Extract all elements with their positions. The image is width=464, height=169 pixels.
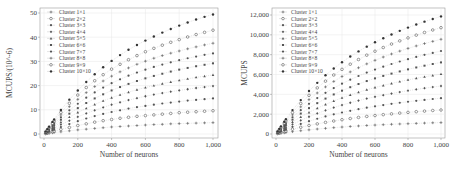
- y-tick-label: 8,000: [253, 51, 269, 59]
- x-tick-label: 1,000: [205, 141, 221, 149]
- legend-entry: Cluster 8×8: [291, 55, 318, 61]
- legend-entry: Cluster 9×9: [59, 62, 86, 68]
- left-chart: 02004006008001,00001020304050Number of n…: [5, 8, 221, 159]
- y-tick-label: 30: [30, 58, 38, 66]
- legend-entry: Cluster 7×7: [291, 49, 318, 55]
- y-tick-label: 12,000: [250, 11, 270, 19]
- legend-entry: Cluster 4×4: [59, 29, 86, 35]
- x-axis-label: Number of neurons: [329, 150, 387, 159]
- legend-entry: Cluster 6×6: [59, 42, 86, 48]
- x-tick-label: 0: [42, 141, 46, 149]
- y-tick-label: 40: [30, 34, 38, 42]
- legend-entry: Cluster 7×7: [59, 49, 86, 55]
- x-tick-label: 1,000: [433, 141, 449, 149]
- legend-entry: Cluster 8×8: [59, 55, 86, 61]
- legend-entry: Cluster 2×2: [59, 16, 86, 22]
- figure: 02004006008001,00001020304050Number of n…: [0, 0, 464, 169]
- legend-entry: Cluster 3×3: [291, 22, 318, 28]
- legend-entry: Cluster 10×10: [291, 68, 323, 74]
- legend-entry: Cluster 5×5: [59, 35, 86, 41]
- x-tick-label: 800: [403, 141, 414, 149]
- y-tick-label: 50: [30, 9, 38, 17]
- y-tick-label: 4,000: [253, 91, 269, 99]
- legend-entry: Cluster 9×9: [291, 62, 318, 68]
- y-tick-label: 10: [30, 106, 38, 114]
- legend-entry: Cluster 6×6: [291, 42, 318, 48]
- y-axis-label: MCUPS/(10^-6): [5, 48, 14, 98]
- x-tick-label: 200: [304, 141, 315, 149]
- y-tick-label: 0: [34, 130, 38, 138]
- y-tick-label: 10,000: [250, 31, 270, 39]
- y-tick-label: 20: [30, 82, 38, 90]
- x-tick-label: 400: [106, 141, 117, 149]
- x-tick-label: 600: [140, 141, 151, 149]
- x-tick-label: 0: [274, 141, 278, 149]
- legend-entry: Cluster 1×1: [59, 9, 86, 15]
- y-axis-label: MCUPS: [240, 60, 249, 85]
- x-axis-label: Number of neurons: [100, 150, 158, 159]
- legend-entry: Cluster 4×4: [291, 29, 318, 35]
- x-tick-label: 400: [337, 141, 348, 149]
- y-tick-label: 6,000: [253, 71, 269, 79]
- legend-entry: Cluster 10×10: [59, 68, 91, 74]
- y-tick-label: 0: [266, 130, 270, 138]
- legend-entry: Cluster 2×2: [291, 16, 318, 22]
- x-tick-label: 200: [73, 141, 84, 149]
- right-chart: 02004006008001,00002,0004,0006,0008,0001…: [240, 8, 449, 159]
- legend-entry: Cluster 3×3: [59, 22, 86, 28]
- legend-entry: Cluster 5×5: [291, 35, 318, 41]
- legend-entry: Cluster 1×1: [291, 9, 318, 15]
- x-tick-label: 600: [370, 141, 381, 149]
- x-tick-label: 800: [174, 141, 185, 149]
- y-tick-label: 2,000: [253, 111, 269, 119]
